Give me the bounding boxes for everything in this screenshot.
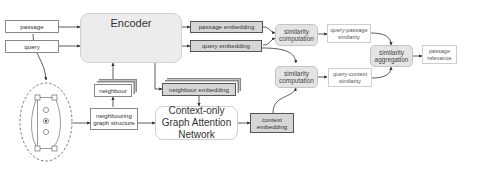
similarity-computation-bottom: similarity computation — [275, 66, 318, 88]
neighbour-embedding-box: neighbour embedding — [162, 83, 236, 96]
encoder-label: Encoder — [111, 17, 152, 30]
encoder-block: Encoder — [80, 13, 182, 63]
query-embedding-box: query embedding — [190, 40, 262, 52]
passage-embedding-box: passage embedding — [190, 21, 263, 33]
query-input-box: query — [5, 40, 59, 53]
passage-relevance-box: passage relevance — [422, 45, 457, 64]
context-only-gat-block: Context-only Graph Attention Network — [155, 106, 238, 140]
graph-illustration — [20, 83, 72, 161]
passage-input-box: passage — [5, 20, 59, 33]
neighbour-box: neighbour — [94, 84, 132, 97]
neighbouring-graph-structure-box: neighbouring graph structure — [90, 108, 138, 130]
similarity-aggregation-box: similarity aggregation — [370, 45, 413, 67]
query-passage-similarity-box: query-passage similarity — [327, 24, 371, 43]
context-embedding-box: context embedding — [250, 113, 294, 133]
similarity-computation-top: similarity computation — [275, 24, 318, 46]
query-context-similarity-box: query-context similarity — [328, 68, 372, 87]
